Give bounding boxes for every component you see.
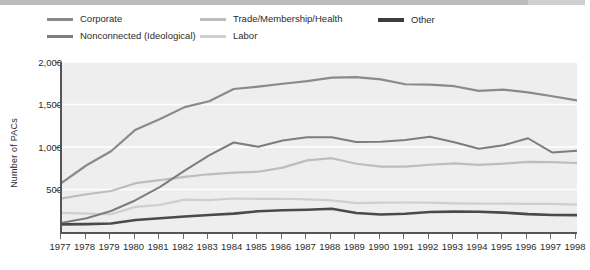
legend-item-nonconnected[interactable]: Nonconnected (Ideological) bbox=[47, 31, 196, 41]
series-lines bbox=[62, 62, 577, 232]
series-line-corporate bbox=[62, 77, 577, 182]
x-tick-mark bbox=[232, 234, 233, 239]
x-tick-mark bbox=[379, 234, 380, 239]
x-tick-mark bbox=[575, 234, 576, 239]
legend-label-trade-membership-health: Trade/Membership/Health bbox=[233, 14, 342, 24]
legend-label-other: Other bbox=[411, 15, 435, 25]
legend-swatch-nonconnected bbox=[47, 35, 73, 38]
x-tick-mark bbox=[526, 234, 527, 239]
x-tick-mark bbox=[354, 234, 355, 239]
x-tick-mark bbox=[85, 234, 86, 239]
legend-item-corporate[interactable]: Corporate bbox=[47, 14, 122, 24]
x-tick-mark bbox=[428, 234, 429, 239]
x-tick-mark bbox=[550, 234, 551, 239]
chart-legend: Corporate Nonconnected (Ideological) Tra… bbox=[0, 14, 585, 50]
y-axis-title: Number of PACs bbox=[9, 93, 19, 213]
x-tick-mark bbox=[330, 234, 331, 239]
legend-item-labor[interactable]: Labor bbox=[200, 31, 257, 41]
legend-label-nonconnected: Nonconnected (Ideological) bbox=[80, 31, 196, 41]
legend-swatch-other bbox=[378, 18, 404, 22]
series-line-other bbox=[62, 209, 577, 225]
top-rule-dark bbox=[0, 0, 528, 5]
x-tick-mark bbox=[452, 234, 453, 239]
series-line-trade-membership-health bbox=[62, 158, 577, 198]
legend-label-labor: Labor bbox=[233, 31, 257, 41]
x-tick-mark bbox=[281, 234, 282, 239]
legend-item-other[interactable]: Other bbox=[378, 15, 435, 25]
x-tick-mark bbox=[256, 234, 257, 239]
x-tick-mark bbox=[158, 234, 159, 239]
legend-swatch-trade-membership-health bbox=[200, 18, 226, 21]
x-tick-mark bbox=[60, 234, 61, 239]
chart-area: Number of PACs 2,000 1,500 1,000 500 197… bbox=[0, 52, 585, 270]
x-tick-mark bbox=[403, 234, 404, 239]
x-tick-mark bbox=[109, 234, 110, 239]
x-tick-mark bbox=[477, 234, 478, 239]
x-tick-mark bbox=[134, 234, 135, 239]
legend-item-trade-membership-health[interactable]: Trade/Membership/Health bbox=[200, 14, 342, 24]
series-group bbox=[62, 77, 577, 224]
legend-swatch-corporate bbox=[47, 18, 73, 21]
plot-canvas bbox=[60, 62, 577, 232]
x-tick-mark bbox=[183, 234, 184, 239]
x-tick-mark bbox=[207, 234, 208, 239]
legend-label-corporate: Corporate bbox=[80, 14, 122, 24]
x-tick-mark bbox=[305, 234, 306, 239]
gridlines bbox=[62, 62, 577, 190]
legend-swatch-labor bbox=[200, 35, 226, 38]
x-tick-label-1998: 1998 bbox=[558, 241, 590, 252]
x-tick-mark bbox=[501, 234, 502, 239]
x-axis-line bbox=[60, 232, 577, 234]
